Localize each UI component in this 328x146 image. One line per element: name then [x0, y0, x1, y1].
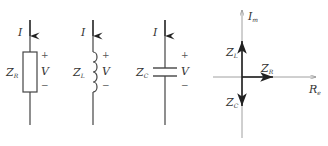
current-label: I	[80, 26, 86, 39]
impedance-diagram: I ZR + V − I ZL + V − I ZC + V − Im Re Z…	[0, 0, 328, 146]
resistor-symbol	[23, 52, 37, 92]
zc-vector-label: ZC	[225, 96, 239, 109]
inductor-coil-symbol	[93, 52, 97, 92]
plus-sign: +	[181, 50, 189, 60]
current-label: I	[152, 26, 158, 39]
minus-sign: −	[41, 80, 49, 90]
resistor-circuit: I ZR + V −	[5, 20, 50, 125]
impedance-label: ZL	[72, 66, 85, 79]
real-axis-label: Re	[308, 83, 321, 96]
minus-sign: −	[102, 80, 110, 90]
zr-vector-label: ZR	[260, 62, 274, 75]
voltage-label: V	[181, 65, 190, 78]
imaginary-axis-label: Im	[247, 10, 258, 23]
impedance-label: ZC	[135, 66, 149, 79]
impedance-label: ZR	[5, 66, 19, 79]
capacitor-circuit: I ZC + V −	[135, 20, 190, 125]
voltage-label: V	[41, 65, 50, 78]
inductor-circuit: I ZL + V −	[72, 20, 111, 125]
phasor-diagram: Im Re ZL ZR ZC	[213, 10, 321, 138]
current-label: I	[17, 26, 23, 39]
minus-sign: −	[181, 80, 189, 90]
voltage-label: V	[102, 65, 111, 78]
zl-vector-label: ZL	[225, 46, 238, 59]
plus-sign: +	[102, 50, 110, 60]
plus-sign: +	[41, 50, 49, 60]
